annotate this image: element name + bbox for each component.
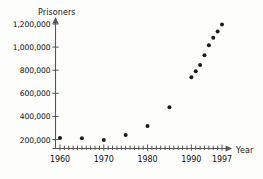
data-point [124,133,128,137]
y-axis-tick-label: 1,000,000 [13,43,51,52]
y-axis-arrowhead [52,17,58,23]
y-axis-title: Prisoners [38,8,76,17]
x-axis-tick-label: 1960 [50,155,70,164]
data-point [207,43,211,47]
data-point [220,23,224,27]
y-axis-tick-label: 600,000 [20,89,51,98]
x-axis-tick-label: 1980 [138,155,158,164]
x-axis-arrowhead [226,145,232,151]
data-point [202,53,206,57]
y-axis-tick-label: 400,000 [20,112,51,121]
x-axis-tick-label: 1970 [94,155,114,164]
data-point [102,138,106,142]
data-point [80,136,84,140]
data-point [211,36,215,40]
data-point [216,30,220,34]
data-point [167,105,171,109]
data-point [58,136,62,140]
data-point [189,75,193,79]
y-axis-tick-label: 1,200,000 [13,20,51,29]
data-point [198,63,202,67]
x-axis-tick-label: 1997 [212,155,232,164]
x-axis-title: Year [236,146,253,155]
data-point [146,124,150,128]
x-axis-tick-label: 1990 [181,155,201,164]
chart-figure: Prisoners Year 200,000400,000600,000800,… [0,0,263,179]
y-axis-tick-label: 800,000 [20,66,51,75]
y-axis-tick-label: 200,000 [20,135,51,144]
data-point [194,69,198,73]
